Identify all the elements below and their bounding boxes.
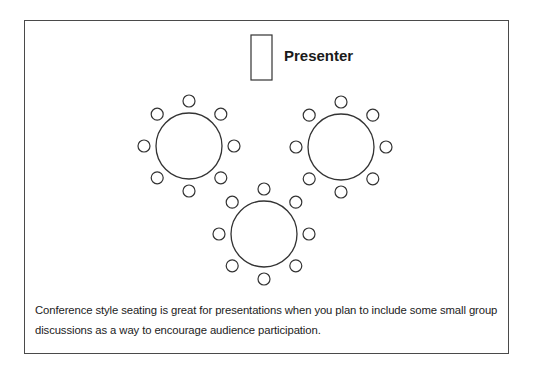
chair <box>183 95 195 107</box>
table-left <box>138 95 240 197</box>
chair <box>367 173 379 185</box>
round-table <box>156 113 222 179</box>
caption-text: Conference style seating is great for pr… <box>35 300 505 340</box>
chair <box>215 172 227 184</box>
chair <box>213 228 225 240</box>
round-table <box>308 114 374 180</box>
chair <box>151 108 163 120</box>
chair <box>228 140 240 152</box>
chair <box>367 109 379 121</box>
table-bottom <box>213 183 315 285</box>
presenter-label: Presenter <box>284 47 353 64</box>
chair <box>151 172 163 184</box>
chair <box>380 141 392 153</box>
chair <box>215 108 227 120</box>
table-right <box>290 96 392 198</box>
chair <box>335 186 347 198</box>
chair <box>303 109 315 121</box>
chair <box>290 141 302 153</box>
chair <box>258 273 270 285</box>
chair <box>335 96 347 108</box>
chair <box>290 196 302 208</box>
chair <box>258 183 270 195</box>
presenter-podium <box>251 35 272 80</box>
round-table <box>231 201 297 267</box>
chair <box>290 260 302 272</box>
chair <box>226 260 238 272</box>
chair <box>303 173 315 185</box>
chair <box>226 196 238 208</box>
chair <box>303 228 315 240</box>
chair <box>138 140 150 152</box>
chair <box>183 185 195 197</box>
tables-group <box>138 95 392 285</box>
